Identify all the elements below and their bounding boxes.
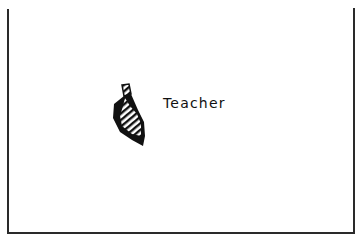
wall-bottom bbox=[7, 232, 355, 234]
wall-left bbox=[7, 9, 9, 234]
wall-right bbox=[353, 8, 355, 234]
teacher-label: Teacher bbox=[163, 95, 226, 111]
teacher-figure-icon bbox=[110, 82, 152, 150]
